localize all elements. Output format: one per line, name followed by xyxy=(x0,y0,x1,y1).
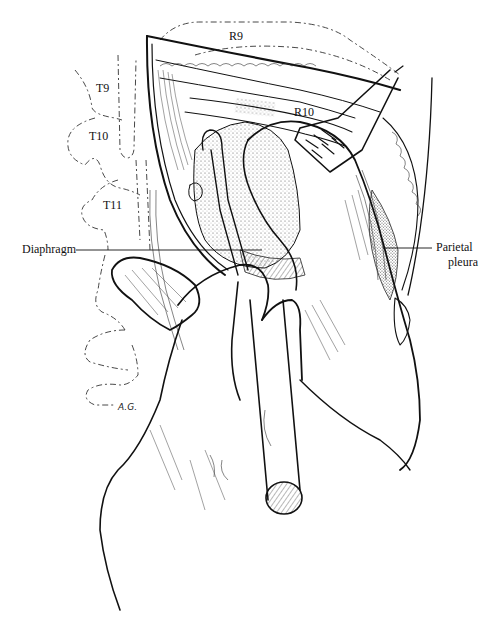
line-art xyxy=(0,0,496,632)
label-parietal: Parietal xyxy=(436,241,473,254)
label-diaphragm: Diaphragm xyxy=(22,243,76,256)
surgical-illustration: R9 R10 T9 T10 T11 Diaphragm Parietal ple… xyxy=(0,0,496,632)
rib-retractor xyxy=(295,66,403,172)
label-r9: R9 xyxy=(229,30,243,43)
lung-tissue xyxy=(189,122,305,279)
label-r10: R10 xyxy=(294,106,314,119)
label-pleura: pleura xyxy=(448,256,478,269)
label-t9: T9 xyxy=(96,82,109,95)
right-chest-wall xyxy=(356,78,432,345)
artist-signature: A.G. xyxy=(118,402,137,412)
label-t11: T11 xyxy=(103,199,122,212)
label-t10: T10 xyxy=(89,130,108,143)
